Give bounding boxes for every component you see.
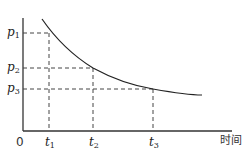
p2-sub: 2 bbox=[15, 66, 20, 75]
p1-sub: 1 bbox=[15, 31, 20, 40]
x-tick-t3: t3 bbox=[149, 136, 159, 150]
y-tick-p2: p2 bbox=[7, 61, 20, 75]
p2-base: p bbox=[7, 60, 15, 74]
decay-curve bbox=[42, 19, 202, 95]
origin-label: 0 bbox=[16, 136, 24, 148]
p3-base: p bbox=[7, 81, 15, 95]
t1-sub: 1 bbox=[50, 141, 55, 150]
x-tick-t1: t1 bbox=[45, 136, 55, 150]
p1-base: p bbox=[7, 25, 15, 39]
guide-lines bbox=[23, 33, 153, 131]
t3-sub: 3 bbox=[154, 141, 159, 150]
t2-sub: 2 bbox=[94, 141, 99, 150]
y-tick-p1: p1 bbox=[7, 26, 20, 40]
p3-sub: 3 bbox=[15, 87, 20, 96]
y-tick-p3: p3 bbox=[7, 82, 20, 96]
x-tick-t2: t2 bbox=[89, 136, 99, 150]
x-axis-label: 时间 bbox=[220, 135, 242, 146]
chart-canvas bbox=[0, 0, 242, 150]
